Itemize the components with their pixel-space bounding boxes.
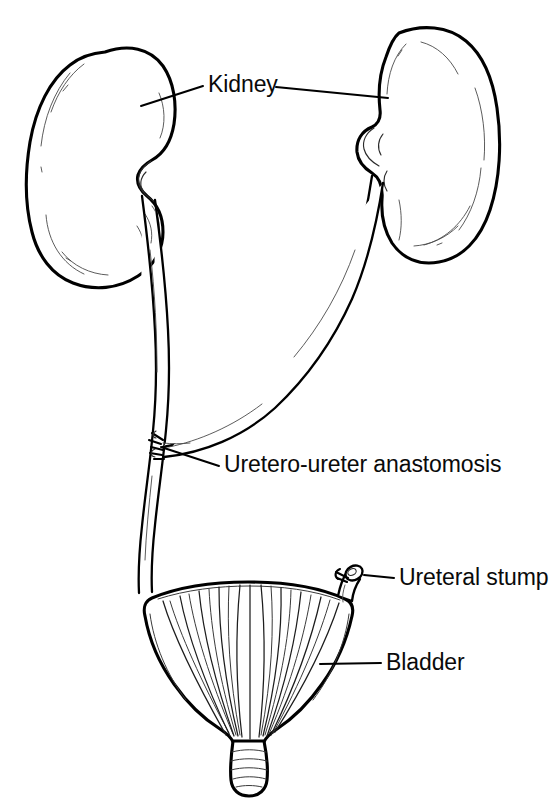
label-kidney: Kidney (208, 71, 278, 97)
label-uretero-ureter-anastomosis: Uretero-ureter anastomosis (224, 451, 501, 477)
label-ureteral-stump: Ureteral stump (399, 564, 548, 590)
anatomy-figure: Kidney Uretero-ureter anastomosis Ureter… (0, 0, 558, 805)
urinary-tract-diagram: Kidney Uretero-ureter anastomosis Ureter… (0, 0, 558, 805)
label-bladder: Bladder (386, 649, 465, 675)
bladder-leader (320, 663, 381, 664)
